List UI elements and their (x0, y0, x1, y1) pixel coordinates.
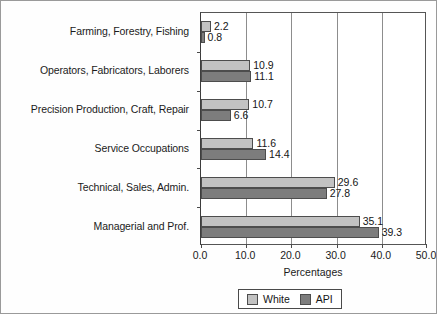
legend-swatch-white-icon (247, 294, 258, 305)
legend-label-white: White (263, 293, 290, 305)
x-axis-title: Percentages (200, 266, 426, 278)
bar-group: 35.139.3 (201, 216, 427, 239)
bar-value-label: 35.1 (360, 216, 383, 227)
x-tick-label: 10.0 (235, 249, 255, 261)
bar-group: 2.20.8 (201, 21, 427, 44)
gridline (337, 13, 338, 244)
category-label: Service Occupations (0, 142, 189, 154)
bar-api (201, 110, 231, 121)
x-axis-tick (382, 244, 383, 248)
x-axis-tick (426, 244, 427, 248)
x-axis-tick (201, 244, 202, 248)
x-axis-tick (246, 244, 247, 248)
bar-group: 11.614.4 (201, 138, 427, 161)
bar-value-label: 11.1 (251, 71, 274, 82)
category-label: Precision Production, Craft, Repair (0, 103, 189, 115)
legend-entry-white: White (247, 293, 290, 305)
bar-value-label: 0.8 (205, 32, 223, 43)
bar-api (201, 188, 327, 199)
category-label: Managerial and Prof. (0, 220, 189, 232)
y-axis-tick (197, 168, 201, 169)
y-axis-tick (197, 52, 201, 53)
bar-api (201, 227, 379, 238)
bar-white (201, 177, 335, 188)
x-axis-tick (291, 244, 292, 248)
bar-group: 10.76.6 (201, 99, 427, 122)
bar-group: 29.627.8 (201, 177, 427, 200)
bar-value-label: 14.4 (266, 149, 289, 160)
bar-value-label: 27.8 (327, 188, 350, 199)
x-axis-tick (337, 244, 338, 248)
bar-white (201, 138, 253, 149)
legend-entry-api: API (300, 293, 333, 305)
x-tick-label: 40.0 (371, 249, 391, 261)
chart-legend: White API (238, 289, 342, 309)
y-axis-tick (197, 207, 201, 208)
y-axis-tick (197, 91, 201, 92)
gridline (382, 13, 383, 244)
legend-swatch-api-icon (300, 294, 311, 305)
category-label: Farming, Forestry, Fishing (0, 25, 189, 37)
x-tick-label: 30.0 (325, 249, 345, 261)
category-axis-labels: Farming, Forestry, FishingOperators, Fab… (1, 12, 195, 245)
bar-white (201, 60, 250, 71)
bar-value-label: 10.7 (249, 99, 272, 110)
bar-value-label: 39.3 (379, 227, 402, 238)
category-label: Operators, Fabricators, Laborers (0, 64, 189, 76)
gridline (291, 13, 292, 244)
gridline (246, 13, 247, 244)
bar-api (201, 71, 251, 82)
bar-white (201, 216, 360, 227)
x-tick-label: 50.0 (416, 249, 436, 261)
x-tick-label: 20.0 (280, 249, 300, 261)
legend-label-api: API (316, 293, 333, 305)
chart-figure: Farming, Forestry, FishingOperators, Fab… (0, 0, 437, 314)
bar-api (201, 149, 266, 160)
category-label: Technical, Sales, Admin. (0, 181, 189, 193)
y-axis-tick (197, 130, 201, 131)
bar-value-label: 6.6 (231, 110, 249, 121)
bar-group: 10.911.1 (201, 60, 427, 83)
plot-area: 2.20.810.911.110.76.611.614.429.627.835.… (200, 12, 426, 245)
x-tick-label: 0.0 (193, 249, 208, 261)
